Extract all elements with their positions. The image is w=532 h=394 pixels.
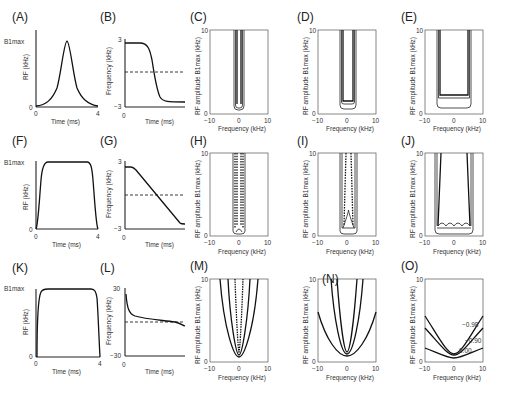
svg-text:(F): (F)	[12, 134, 27, 148]
panel-h: (H) 10 0 −10 0 10 Frequency (kHz) RF amp…	[190, 134, 272, 256]
svg-text:−10: −10	[204, 365, 215, 372]
svg-text:Frequency (kHz): Frequency (kHz)	[326, 248, 374, 256]
svg-text:10: 10	[372, 117, 380, 124]
svg-text:RF (kHz): RF (kHz)	[22, 184, 30, 210]
svg-text:0: 0	[237, 117, 241, 124]
svg-text:RF amplitude B1max (kHz): RF amplitude B1max (kHz)	[194, 37, 202, 115]
svg-text:−3: −3	[114, 103, 122, 110]
svg-text:0: 0	[312, 110, 316, 117]
svg-text:Frequency (kHz): Frequency (kHz)	[105, 297, 113, 345]
svg-text:0: 0	[34, 110, 38, 117]
svg-text:Frequency (kHz): Frequency (kHz)	[326, 374, 374, 382]
svg-text:0: 0	[122, 234, 126, 241]
annot-0-00: 0.00	[459, 347, 472, 354]
svg-text:0: 0	[452, 239, 456, 246]
annot-minus-0-90: −0.90	[465, 337, 482, 344]
svg-text:(B): (B)	[100, 10, 116, 24]
svg-text:0: 0	[34, 360, 38, 367]
svg-text:0: 0	[345, 365, 349, 372]
svg-text:0: 0	[312, 232, 316, 239]
svg-text:0: 0	[29, 104, 33, 111]
svg-text:10: 10	[201, 150, 209, 157]
svg-text:0: 0	[312, 358, 316, 365]
panel-g: (G) 3 −3 0 Time (ms) Frequency (kHz)	[100, 134, 185, 249]
svg-text:−10: −10	[312, 239, 323, 246]
svg-text:10: 10	[372, 365, 380, 372]
svg-text:0: 0	[237, 365, 241, 372]
rf-curve	[36, 41, 98, 106]
svg-text:0: 0	[29, 226, 33, 233]
panel-c: (C) 10 0 −10 0 10 Frequency (kHz) RF amp…	[190, 10, 272, 133]
svg-text:(O): (O)	[401, 259, 418, 273]
svg-text:0: 0	[122, 361, 126, 368]
svg-text:−10: −10	[419, 117, 430, 124]
svg-text:(G): (G)	[100, 134, 117, 148]
panel-k: (K) B1max 0 0 4 Time (ms) RF (kHz)	[4, 261, 102, 376]
svg-text:RF amplitude B1max (kHz): RF amplitude B1max (kHz)	[302, 37, 310, 115]
svg-text:Frequency (kHz): Frequency (kHz)	[105, 170, 113, 218]
svg-text:Frequency (kHz): Frequency (kHz)	[326, 125, 374, 133]
x-axis-label: Time (ms)	[51, 118, 80, 126]
svg-text:0: 0	[237, 239, 241, 246]
svg-text:Frequency (kHz): Frequency (kHz)	[218, 125, 266, 133]
svg-text:(L): (L)	[100, 261, 115, 275]
panel-o: (O) 10 0 −10 0 10 Frequency (kHz) RF amp…	[401, 259, 487, 382]
svg-text:0: 0	[419, 110, 423, 117]
svg-text:10: 10	[309, 27, 317, 34]
svg-text:0: 0	[122, 112, 126, 119]
svg-text:3: 3	[118, 158, 122, 165]
svg-text:10: 10	[479, 239, 487, 246]
tick-b1max: B1max	[4, 38, 25, 45]
svg-text:0: 0	[452, 365, 456, 372]
svg-text:10: 10	[416, 150, 424, 157]
svg-text:(D): (D)	[297, 10, 314, 24]
panel-label-a: (A)	[12, 10, 28, 24]
svg-text:−10: −10	[312, 117, 323, 124]
svg-text:−10: −10	[204, 117, 215, 124]
svg-text:10: 10	[416, 276, 424, 283]
figure: (A) B1max 0 0 4 Time (ms) RF (kHz) (B) 3…	[0, 0, 532, 394]
svg-text:−10: −10	[419, 239, 430, 246]
svg-text:Frequency (kHz): Frequency (kHz)	[218, 374, 266, 382]
svg-text:(J): (J)	[401, 134, 415, 148]
svg-text:0: 0	[204, 110, 208, 117]
svg-text:−10: −10	[312, 365, 323, 372]
svg-text:10: 10	[309, 276, 317, 283]
svg-text:4: 4	[98, 360, 102, 367]
svg-text:−10: −10	[204, 239, 215, 246]
svg-text:0: 0	[204, 358, 208, 365]
panel-n: (N) 10 0 −10 0 10 Frequency (kHz) RF amp…	[302, 272, 380, 382]
svg-text:0: 0	[29, 353, 33, 360]
y-axis-label: RF (kHz)	[22, 54, 30, 80]
svg-text:0: 0	[345, 239, 349, 246]
svg-text:10: 10	[416, 27, 424, 34]
svg-text:0: 0	[419, 232, 423, 239]
svg-text:0: 0	[419, 358, 423, 365]
panel-a: (A) B1max 0 0 4 Time (ms) RF (kHz)	[4, 10, 100, 126]
panel-m: (M) 10 0 −10 0 10 Frequency (kHz) RF amp…	[190, 259, 272, 382]
svg-text:Frequency (kHz): Frequency (kHz)	[433, 125, 481, 133]
svg-text:(M): (M)	[190, 259, 208, 273]
panel-d: (D) 10 0 −10 0 10 Frequency (kHz) RF amp…	[297, 10, 380, 133]
svg-text:0: 0	[204, 232, 208, 239]
panel-j: (J) 10 0 −10 0 10 Frequency (kHz) RF amp…	[401, 134, 487, 256]
svg-text:Frequency (kHz): Frequency (kHz)	[433, 248, 481, 256]
svg-text:B1max: B1max	[4, 285, 25, 292]
svg-text:3: 3	[118, 36, 122, 43]
panel-f: (F) B1max 0 0 4 Time (ms) RF (kHz)	[4, 134, 100, 249]
panel-e: (E) 10 0 −10 0 10 Frequency (kHz) RF amp…	[401, 10, 487, 133]
svg-text:10: 10	[479, 117, 487, 124]
svg-text:Time (ms): Time (ms)	[145, 241, 174, 249]
svg-text:RF amplitude B1max (kHz): RF amplitude B1max (kHz)	[409, 37, 417, 115]
svg-text:10: 10	[479, 365, 487, 372]
curve-0-00	[425, 348, 483, 358]
svg-text:B1max: B1max	[4, 159, 25, 166]
panel-l: (L) 30 −30 0 Time (ms) Frequency (kHz)	[100, 261, 185, 376]
svg-text:0: 0	[345, 117, 349, 124]
svg-text:−3: −3	[114, 225, 122, 232]
svg-text:Time (ms): Time (ms)	[145, 118, 174, 126]
svg-text:Time (ms): Time (ms)	[145, 368, 174, 376]
svg-text:Frequency (kHz): Frequency (kHz)	[433, 374, 481, 382]
panel-b: (B) 3 −3 0 Time (ms) Frequency (kHz)	[100, 10, 185, 126]
svg-text:(H): (H)	[190, 134, 207, 148]
